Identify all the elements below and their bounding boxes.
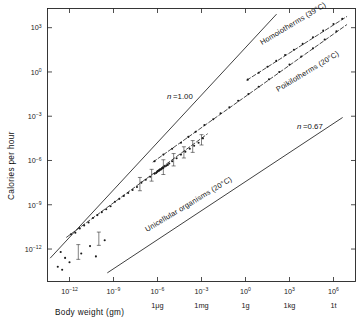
tick-label: 10−12 [61, 286, 78, 296]
error-bars [76, 135, 203, 260]
tick-label: 10−9 [28, 200, 42, 210]
data-point [127, 192, 129, 194]
slope-label-upper: n =1.00 [167, 92, 193, 101]
data-point [104, 239, 106, 241]
data-point [187, 136, 189, 138]
data-point [312, 47, 314, 49]
annotation-poikilotherms: Poikilotherms (20°C) [274, 49, 340, 94]
tick-label: 100 [31, 67, 42, 77]
data-point [184, 151, 186, 153]
data-point [228, 106, 230, 108]
tick-label: 103 [31, 23, 42, 33]
data-point [332, 23, 334, 25]
data-point [92, 217, 94, 219]
data-point [95, 255, 97, 257]
data-point [189, 148, 191, 150]
data-point [300, 55, 302, 57]
annotation-homoiotherms: Homoiotherms (39°C) [258, 0, 327, 47]
tick-label: 10−6 [151, 286, 165, 296]
data-points [57, 18, 344, 271]
data-point [140, 182, 142, 184]
x-unit-label: 1g [241, 301, 249, 310]
data-point [162, 154, 164, 156]
tick-label: 10−6 [28, 156, 42, 166]
data-point [145, 179, 147, 181]
data-point [195, 131, 197, 133]
x-unit-label: 1t [330, 301, 336, 310]
tick-label: 103 [284, 286, 295, 296]
x-unit-label: 1kg [284, 301, 296, 310]
x-tick-labels: 10−1210−910−610−3100103106 [61, 286, 339, 296]
data-point [198, 142, 200, 144]
y-tick-labels: 10310010−310−610−910−12 [25, 23, 42, 254]
tick-label: 10−12 [25, 244, 42, 254]
metabolic-scaling-chart: 10−1210−910−610−3100103106 1μg1mg1g1kg1t… [0, 0, 363, 325]
data-point [83, 224, 85, 226]
data-point [74, 232, 76, 234]
data-point [123, 195, 125, 197]
data-point [168, 162, 170, 164]
data-point [293, 49, 295, 51]
data-point [96, 214, 98, 216]
data-point [324, 38, 326, 40]
data-point [132, 189, 134, 191]
data-point [258, 86, 260, 88]
data-point [341, 18, 343, 20]
data-point [176, 157, 178, 159]
data-point [105, 208, 107, 210]
data-point [322, 30, 324, 32]
data-point [258, 72, 260, 74]
data-point [136, 186, 138, 188]
reference-lines [50, 14, 342, 272]
data-point [203, 124, 205, 126]
x-unit-labels: 1μg1mg1g1kg1t [151, 301, 336, 310]
data-point [268, 78, 270, 80]
data-point [275, 60, 277, 62]
tick-label: 106 [328, 286, 339, 296]
data-point [110, 205, 112, 207]
data-point [64, 257, 66, 259]
data-point [302, 43, 304, 45]
tick-label: 10−3 [195, 286, 209, 296]
data-point [180, 154, 182, 156]
data-point [220, 112, 222, 114]
tick-label: 10−3 [28, 111, 42, 121]
data-point [88, 221, 90, 223]
fit-line-2 [67, 134, 208, 237]
data-point [154, 160, 156, 162]
tick-label: 10−9 [107, 286, 121, 296]
slope-label-lower: n =0.67 [297, 122, 323, 131]
data-point [60, 251, 62, 253]
data-point [57, 266, 59, 268]
x-unit-label: 1mg [194, 301, 208, 310]
data-point [79, 227, 81, 229]
data-point [247, 79, 249, 81]
data-point [284, 54, 286, 56]
data-point [335, 30, 337, 32]
data-point [237, 100, 239, 102]
y-axis-title: Calories per hour [7, 131, 16, 200]
tick-label: 100 [240, 286, 251, 296]
data-point [89, 245, 91, 247]
x-unit-label: 1μg [151, 301, 163, 310]
data-point [202, 137, 204, 139]
data-point [70, 233, 72, 235]
data-point [61, 269, 63, 271]
data-point [68, 261, 70, 263]
data-point [171, 160, 173, 162]
data-point [149, 176, 151, 178]
data-point [80, 252, 82, 254]
data-point [171, 148, 173, 150]
data-point [212, 118, 214, 120]
data-point [180, 142, 182, 144]
annotation-unicellular: Unicellular organisms (20°C) [143, 175, 233, 234]
data-point [114, 201, 116, 203]
data-point [266, 66, 268, 68]
data-point [278, 71, 280, 73]
figure-container: 10−1210−910−610−3100103106 1μg1mg1g1kg1t… [0, 0, 363, 325]
data-point [193, 145, 195, 147]
data-point [247, 93, 249, 95]
data-point [101, 211, 103, 213]
x-axis-title: Body weight (gm) [55, 308, 124, 317]
slope-0.67-reference [108, 118, 343, 273]
